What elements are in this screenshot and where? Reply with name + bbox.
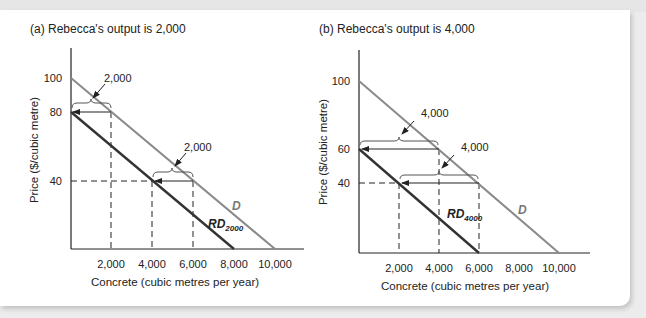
x-tick: 6,000 — [465, 262, 493, 274]
y-tick: 100 — [44, 72, 62, 84]
annotation-label: 2,000 — [104, 72, 132, 84]
x-axis-label: Concrete (cubic metres per year) — [91, 276, 259, 288]
annotation-label: 4,000 — [421, 107, 449, 119]
annotation-label: 2,000 — [184, 141, 212, 153]
panel-a: (a) Rebecca's output is 2,000 Price ($/c… — [28, 22, 304, 288]
demand-label: D — [232, 199, 241, 213]
x-tick: 8,000 — [220, 258, 248, 270]
panel-b: (b) Rebecca's output is 4,000 Price ($/c… — [317, 22, 590, 292]
annotation-pointer — [93, 84, 105, 98]
figure: (a) Rebecca's output is 2,000 Price ($/c… — [0, 0, 646, 318]
demand-label: D — [518, 203, 527, 217]
x-tick: 8,000 — [505, 262, 533, 274]
x-tick: 6,000 — [179, 258, 207, 270]
x-tick: 2,000 — [97, 258, 125, 270]
y-tick: 80 — [50, 106, 62, 118]
x-tick: 2,000 — [385, 262, 413, 274]
y-tick: 40 — [50, 175, 62, 187]
demand-curve — [71, 78, 275, 249]
panel-a-title: (a) Rebecca's output is 2,000 — [30, 22, 186, 36]
x-tick: 4,000 — [425, 262, 453, 274]
y-tick: 40 — [338, 177, 350, 189]
residual-demand-curve — [359, 149, 479, 253]
x-tick: 10,000 — [542, 262, 576, 274]
y-tick: 60 — [338, 143, 350, 155]
panel-b-title: (b) Rebecca's output is 4,000 — [319, 22, 475, 36]
annotation-pointer — [175, 153, 186, 166]
x-tick: 10,000 — [258, 258, 292, 270]
x-axis-label: Concrete (cubic metres per year) — [381, 280, 549, 292]
y-axis-label: Price ($/cubic metre) — [317, 99, 329, 205]
y-axis-label: Price ($/cubic metre) — [28, 97, 40, 203]
demand-curve — [359, 81, 559, 253]
residual-demand-label: RD4000 — [447, 207, 483, 223]
x-tick: 4,000 — [138, 258, 166, 270]
y-tick: 100 — [332, 75, 350, 87]
annotation-label: 4,000 — [461, 141, 489, 153]
